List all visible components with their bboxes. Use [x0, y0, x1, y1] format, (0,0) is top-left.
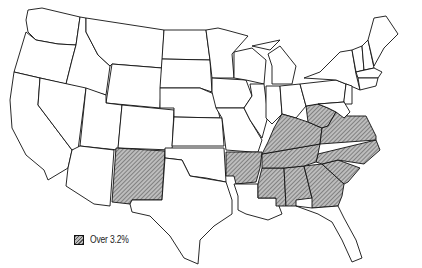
- state-maine: [368, 16, 398, 66]
- state-new-jersey: [344, 84, 352, 104]
- state-north-dakota: [162, 30, 210, 60]
- state-wyoming: [106, 64, 162, 108]
- state-arkansas: [226, 152, 262, 184]
- legend-swatch-hatch: [74, 235, 84, 245]
- us-map: [0, 0, 422, 268]
- state-new-mexico: [112, 148, 165, 204]
- state-kansas: [172, 117, 224, 146]
- state-south-dakota: [160, 59, 212, 92]
- legend: Over 3.2%: [74, 234, 135, 245]
- state-connecticut-ri: [358, 78, 378, 90]
- state-wisconsin: [234, 48, 266, 84]
- state-colorado: [118, 105, 174, 150]
- legend-label: Over 3.2%: [90, 234, 129, 245]
- state-arizona: [66, 146, 114, 206]
- state-iowa: [212, 78, 252, 108]
- state-florida: [296, 206, 362, 262]
